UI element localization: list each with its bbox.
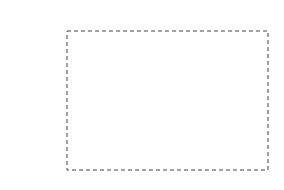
f-function-diagram <box>0 0 284 190</box>
f-function-boundary <box>67 31 268 170</box>
